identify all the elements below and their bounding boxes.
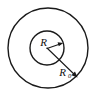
outer-radius-label: R (58, 66, 66, 78)
outer-radius-subscript-label: 0 (68, 72, 72, 79)
inner-radius-arrowhead (58, 42, 64, 46)
inner-radius-label: R (39, 36, 47, 48)
concentric-circles-figure: R R 0 (0, 0, 97, 98)
diagram-canvas: R R 0 (0, 0, 97, 98)
outer-radius-label-group: R 0 (58, 66, 72, 79)
